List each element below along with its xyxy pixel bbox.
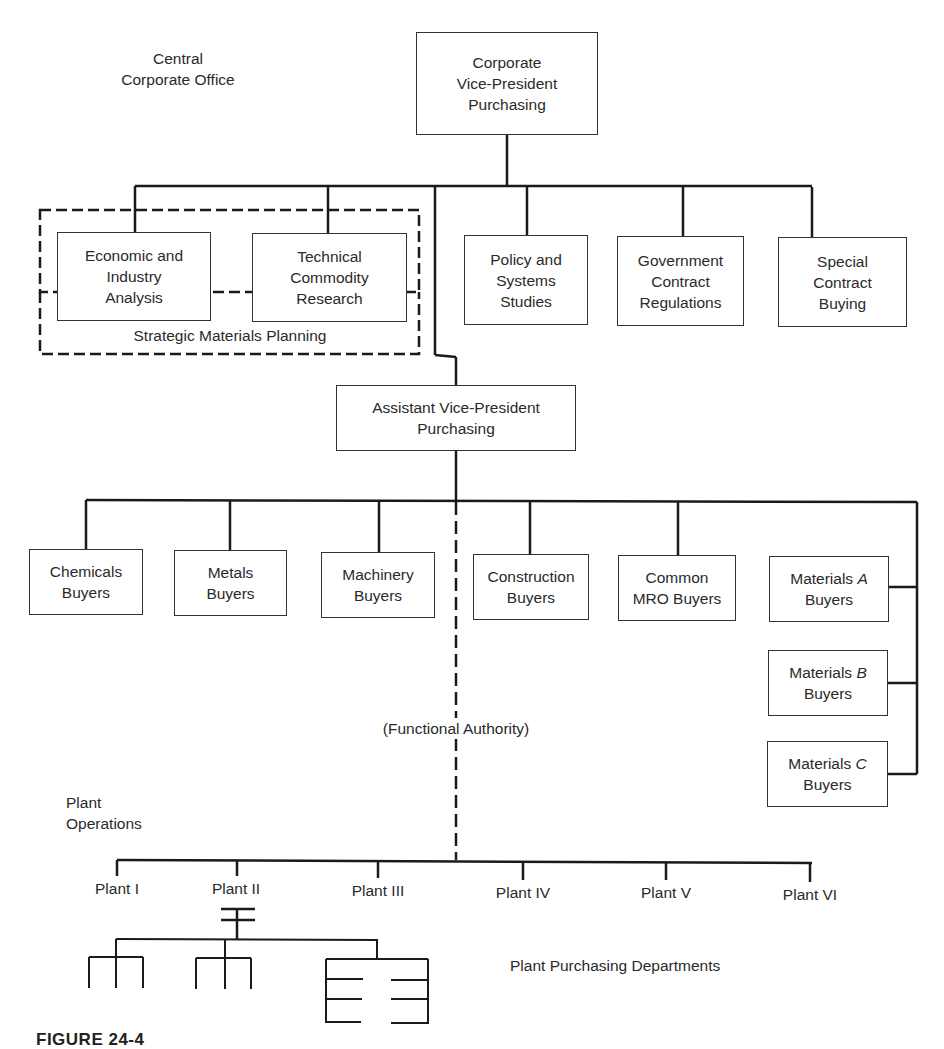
corporate-vp-box[interactable]: Corporate Vice-President Purchasing [416, 32, 598, 135]
plant-operations-label: Plant Operations [66, 792, 166, 834]
plant-purchasing-departments-label: Plant Purchasing Departments [510, 955, 720, 976]
plant-5-label[interactable]: Plant V [641, 884, 691, 902]
figure-caption: FIGURE 24-4 [36, 1030, 144, 1049]
plant-1-label[interactable]: Plant I [95, 880, 139, 898]
central-office-label: Central Corporate Office [108, 48, 248, 90]
materials-a-buyers-box[interactable]: Materials ABuyers [769, 556, 889, 622]
economic-industry-analysis-box[interactable]: Economic andIndustryAnalysis [57, 232, 211, 321]
chemicals-buyers-box[interactable]: ChemicalsBuyers [29, 549, 143, 615]
machinery-buyers-box[interactable]: MachineryBuyers [321, 552, 435, 618]
policy-systems-studies-box[interactable]: Policy andSystemsStudies [464, 235, 588, 325]
plant-4-label[interactable]: Plant IV [496, 884, 550, 902]
strategic-materials-planning-label: Strategic Materials Planning [110, 325, 350, 346]
materials-c-buyers-box[interactable]: Materials CBuyers [767, 741, 888, 807]
assistant-vp-box[interactable]: Assistant Vice-PresidentPurchasing [336, 385, 576, 451]
materials-b-buyers-box[interactable]: Materials BBuyers [768, 650, 888, 716]
technical-commodity-research-box[interactable]: TechnicalCommodityResearch [252, 233, 407, 322]
plant-6-label[interactable]: Plant VI [783, 886, 837, 904]
functional-authority-label: (Functional Authority) [366, 718, 546, 739]
common-mro-buyers-box[interactable]: CommonMRO Buyers [618, 555, 736, 621]
metals-buyers-box[interactable]: MetalsBuyers [174, 550, 287, 616]
special-contract-buying-box[interactable]: SpecialContractBuying [778, 237, 907, 327]
construction-buyers-box[interactable]: ConstructionBuyers [473, 554, 589, 620]
government-contract-regulations-box[interactable]: GovernmentContractRegulations [617, 236, 744, 326]
plant-2-label[interactable]: Plant II [212, 880, 260, 898]
plant-3-label[interactable]: Plant III [352, 882, 405, 900]
